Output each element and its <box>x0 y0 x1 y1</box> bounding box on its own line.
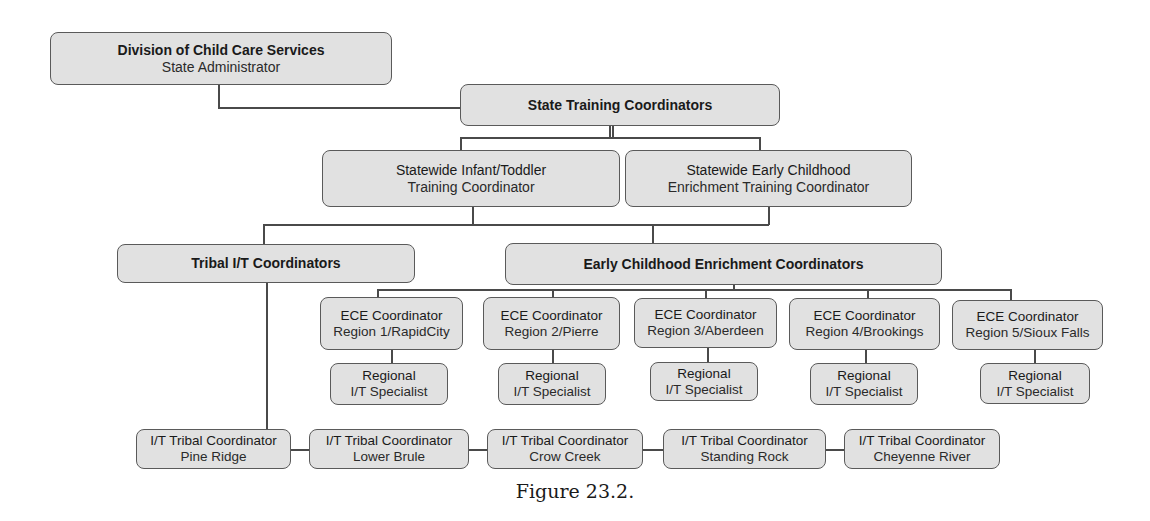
connector <box>460 137 760 139</box>
figure-caption: Figure 23.2. <box>0 480 1150 502</box>
box-subtitle: State Administrator <box>162 59 280 75</box>
box-line2: Region 3/Aberdeen <box>647 323 763 339</box>
box-line1: I/T Tribal Coordinator <box>502 433 629 449</box>
connector <box>266 283 268 430</box>
tribal-it-coordinators-box: Tribal I/T Coordinators <box>117 244 415 283</box>
box-line1: Regional <box>677 366 730 382</box>
connector <box>1034 350 1036 363</box>
connector <box>291 449 309 451</box>
box-title: Division of Child Care Services <box>118 42 325 58</box>
connector <box>218 107 461 109</box>
region-4-box: ECE Coordinator Region 4/Brookings <box>789 298 940 350</box>
box-title: State Training Coordinators <box>528 97 712 113</box>
region-1-box: ECE Coordinator Region 1/RapidCity <box>320 297 463 350</box>
box-line1: Regional <box>837 368 890 384</box>
tribal-pine-ridge-box: I/T Tribal Coordinator Pine Ridge <box>136 429 291 469</box>
connector <box>391 350 393 363</box>
tribal-crow-creek-box: I/T Tribal Coordinator Crow Creek <box>487 429 643 469</box>
box-line2: I/T Specialist <box>513 384 590 400</box>
connector <box>865 350 867 363</box>
tribal-standing-rock-box: I/T Tribal Coordinator Standing Rock <box>663 429 826 469</box>
region-5-box: ECE Coordinator Region 5/Sioux Falls <box>952 300 1103 350</box>
specialist-1-box: Regional I/T Specialist <box>330 363 448 405</box>
box-line1: ECE Coordinator <box>654 307 756 323</box>
tribal-cheyenne-river-box: I/T Tribal Coordinator Cheyenne River <box>844 429 1000 469</box>
connector <box>759 137 761 151</box>
connector <box>263 224 769 226</box>
connector <box>705 289 707 298</box>
box-line1: Regional <box>362 368 415 384</box>
box-line2: Pine Ridge <box>180 449 246 465</box>
box-line2: I/T Specialist <box>825 384 902 400</box>
box-line1: Statewide Early Childhood <box>686 162 850 178</box>
box-line2: Training Coordinator <box>407 179 534 195</box>
box-line1: I/T Tribal Coordinator <box>326 433 453 449</box>
tribal-lower-brule-box: I/T Tribal Coordinator Lower Brule <box>309 429 469 469</box>
connector <box>1010 289 1012 300</box>
box-line2: Cheyenne River <box>874 449 971 465</box>
division-child-care-services-box: Division of Child Care Services State Ad… <box>50 32 392 85</box>
ece-coordinators-box: Early Childhood Enrichment Coordinators <box>505 243 942 285</box>
connector <box>552 350 554 363</box>
box-line2: Lower Brule <box>353 449 425 465</box>
box-line2: Region 4/Brookings <box>806 324 924 340</box>
box-line1: Regional <box>525 368 578 384</box>
region-2-box: ECE Coordinator Region 2/Pierre <box>483 297 620 350</box>
specialist-3-box: Regional I/T Specialist <box>650 362 758 401</box>
connector <box>263 224 265 244</box>
box-line1: ECE Coordinator <box>500 308 602 324</box>
box-line2: Region 5/Sioux Falls <box>966 325 1090 341</box>
box-line2: Crow Creek <box>529 449 600 465</box>
box-line1: I/T Tribal Coordinator <box>150 433 277 449</box>
box-line1: ECE Coordinator <box>976 309 1078 325</box>
box-line2: I/T Specialist <box>350 384 427 400</box>
box-line2: I/T Specialist <box>996 384 1073 400</box>
connector <box>652 224 654 244</box>
connector <box>218 85 220 108</box>
statewide-ece-box: Statewide Early Childhood Enrichment Tra… <box>625 150 912 207</box>
specialist-5-box: Regional I/T Specialist <box>980 363 1090 404</box>
box-line1: I/T Tribal Coordinator <box>859 433 986 449</box>
box-line1: ECE Coordinator <box>340 308 442 324</box>
box-line1: ECE Coordinator <box>813 308 915 324</box>
connector <box>643 449 663 451</box>
connector <box>707 348 709 362</box>
box-line2: Region 1/RapidCity <box>333 324 449 340</box>
box-line2: Standing Rock <box>701 449 789 465</box>
box-line1: I/T Tribal Coordinator <box>681 433 808 449</box>
box-title: Early Childhood Enrichment Coordinators <box>583 256 863 272</box>
connector <box>469 449 487 451</box>
connector <box>460 137 462 151</box>
connector <box>377 289 1011 291</box>
statewide-infant-toddler-box: Statewide Infant/Toddler Training Coordi… <box>322 150 620 207</box>
box-line2: Enrichment Training Coordinator <box>668 179 870 195</box>
specialist-4-box: Regional I/T Specialist <box>810 363 918 405</box>
connector <box>768 207 770 225</box>
connector <box>826 449 844 451</box>
connector <box>867 289 869 298</box>
box-line1: Statewide Infant/Toddler <box>396 162 546 178</box>
specialist-2-box: Regional I/T Specialist <box>498 363 606 405</box>
box-line1: Regional <box>1008 368 1061 384</box>
box-line2: Region 2/Pierre <box>505 324 599 340</box>
box-line2: I/T Specialist <box>665 382 742 398</box>
state-training-coordinators-box: State Training Coordinators <box>460 84 780 126</box>
region-3-box: ECE Coordinator Region 3/Aberdeen <box>634 298 777 348</box>
box-title: Tribal I/T Coordinators <box>191 255 340 271</box>
connector <box>472 207 474 225</box>
